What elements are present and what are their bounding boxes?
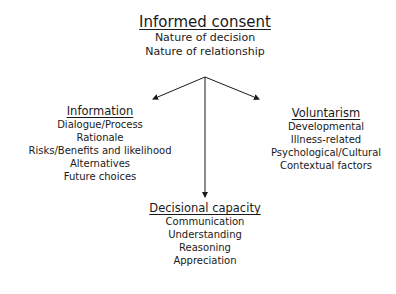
root-title: Informed consent — [105, 14, 305, 31]
arrow-to-voluntarism — [205, 77, 259, 99]
voluntarism-title: Voluntarism — [256, 106, 396, 120]
information-item: Dialogue/Process — [0, 118, 200, 131]
decisional-capacity-item: Reasoning — [130, 241, 280, 254]
voluntarism-item: Contextual factors — [256, 159, 396, 172]
root-item: Nature of relationship — [105, 45, 305, 59]
information-node: Information Dialogue/Process Rationale R… — [0, 104, 200, 183]
root-item: Nature of decision — [105, 31, 305, 45]
decisional-capacity-item: Understanding — [130, 228, 280, 241]
information-item: Risks/Benefits and likelihood — [0, 144, 200, 157]
decisional-capacity-item: Communication — [130, 215, 280, 228]
decisional-capacity-node: Decisional capacity Communication Unders… — [130, 201, 280, 267]
voluntarism-item: Psychological/Cultural — [256, 146, 396, 159]
arrow-to-information — [153, 77, 205, 99]
information-item: Future choices — [0, 170, 200, 183]
information-item: Alternatives — [0, 157, 200, 170]
information-title: Information — [0, 104, 200, 118]
voluntarism-node: Voluntarism Developmental Illness-relate… — [256, 106, 396, 172]
voluntarism-item: Illness-related — [256, 133, 396, 146]
decisional-capacity-item: Appreciation — [130, 254, 280, 267]
decisional-capacity-title: Decisional capacity — [130, 201, 280, 215]
information-item: Rationale — [0, 131, 200, 144]
voluntarism-item: Developmental — [256, 120, 396, 133]
root-node: Informed consent Nature of decision Natu… — [105, 14, 305, 59]
